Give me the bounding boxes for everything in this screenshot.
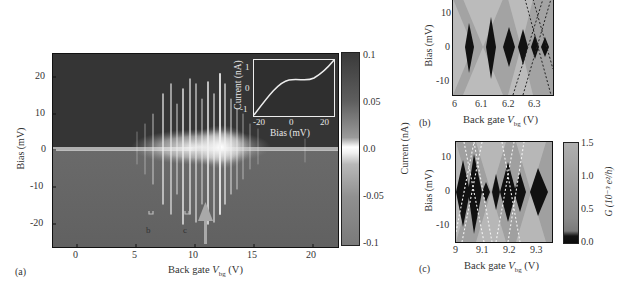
panel-a-xtick-20: 20 — [306, 250, 316, 260]
inset-xtick-0: 0 — [289, 118, 294, 127]
colorbar-c-tick-1.5: 1.5 — [581, 138, 594, 148]
panel-c-colorbar — [563, 142, 579, 244]
colorbar-a-tick-0.0: 0.0 — [363, 144, 376, 154]
panel-a-xlabel: Back gate Vbg (V) — [168, 264, 243, 278]
panel-c-ytick-10: 10 — [441, 152, 451, 162]
panel-a-ytick-0: 0 — [41, 144, 46, 154]
panel-c-xlabel: Back gate Vbg (V) — [464, 260, 539, 274]
panel-a-label: (a) — [15, 266, 26, 277]
inset-xlabel: Bias (mV) — [270, 128, 310, 138]
panel-c-ytick-0: 0 — [445, 186, 450, 196]
inset-ytick-1: 1 — [245, 63, 250, 72]
panel-c-xtick-9: 9 — [453, 245, 458, 255]
colorbar-c-tick-1.0: 1.0 — [581, 171, 594, 181]
panel-c-ylabel: Bias (mV) — [423, 161, 434, 221]
panel-b-label: (b) — [419, 117, 431, 128]
colorbar-a-tick-neg0.05: -0.05 — [363, 191, 384, 201]
marker-b-label: b — [146, 226, 151, 235]
panel-a-ytick-neg20: -20 — [30, 218, 43, 228]
panel-b-xtick-6: 6 — [452, 99, 457, 109]
panel-a-inset — [253, 59, 335, 117]
colorbar-a-tick-neg0.1: -0.1 — [363, 238, 379, 248]
panel-c-heatmap — [455, 141, 553, 243]
panel-b-xtick-6.2: 6.2 — [502, 99, 515, 109]
panel-a-ylabel: Bias (mV) — [15, 119, 26, 179]
panel-c-xtick-9.2: 9.2 — [503, 245, 516, 255]
inset-ytick-0: 0 — [245, 84, 250, 93]
panel-b-xtick-6.3: 6.3 — [528, 99, 541, 109]
colorbar-c-label: G (10⁻³ e²/h) — [603, 152, 614, 232]
colorbar-a-tick-0.1: 0.1 — [363, 50, 376, 60]
colorbar-a-label: Current (nA) — [399, 109, 410, 189]
panel-a-xtick-10: 10 — [188, 250, 198, 260]
panel-b-heatmap-graphic — [453, 0, 553, 95]
panel-c-label: (c) — [419, 263, 430, 274]
panel-b-ytick-10: 10 — [441, 8, 451, 18]
panel-c-xtick-9.3: 9.3 — [530, 245, 543, 255]
panel-a-xtick-5: 5 — [132, 250, 137, 260]
panel-b-ylabel: Bias (mV) — [423, 16, 434, 76]
marker-c-label: c — [183, 226, 187, 235]
inset-iv-curve — [254, 60, 334, 116]
panel-c-heatmap-graphic — [456, 142, 552, 242]
panel-c-ytick-neg10: -10 — [436, 220, 449, 230]
colorbar-a-tick-0.05: 0.05 — [363, 97, 381, 107]
panel-a-ytick-10: 10 — [35, 108, 45, 118]
colorbar-c-tick-0.5: 0.5 — [581, 204, 594, 214]
panel-c-xtick-9.1: 9.1 — [476, 245, 489, 255]
panel-b-ytick-neg10: -10 — [436, 76, 449, 86]
panel-a-ytick-neg10: -10 — [30, 181, 43, 191]
panel-a-xtick-15: 15 — [247, 250, 257, 260]
panel-a-xtick-0: 0 — [73, 250, 78, 260]
panel-b-xtick-6.1: 6.1 — [475, 99, 488, 109]
panel-b-heatmap — [452, 0, 554, 96]
panel-b-xlabel: Back gate Vbg (V) — [463, 114, 538, 128]
inset-xtick-20: 20 — [320, 118, 329, 127]
panel-a-ytick-20: 20 — [35, 71, 45, 81]
colorbar-c-tick-0.0: 0.0 — [581, 237, 594, 247]
inset-ylabel: Current (nA) — [233, 50, 243, 120]
inset-xtick-neg20: -20 — [253, 118, 265, 127]
panel-a-colorbar — [341, 52, 360, 246]
panel-b-ytick-0: 0 — [445, 42, 450, 52]
